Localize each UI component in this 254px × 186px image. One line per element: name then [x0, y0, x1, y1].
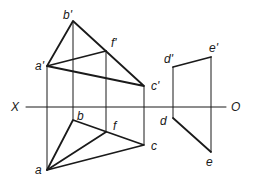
- label-a-prime: a': [35, 59, 45, 73]
- label-b-prime: b': [63, 8, 73, 22]
- top-view-triangle: [47, 120, 144, 170]
- label-c: c: [151, 139, 157, 153]
- label-e: e: [206, 155, 213, 169]
- top-view-line-de: [173, 118, 211, 152]
- axis-label-o: O: [231, 100, 240, 114]
- projection-diagram: X O b' a' f' c' d' e' b a f c d e: [0, 0, 254, 186]
- label-d: d: [160, 114, 167, 128]
- front-view-line-af: [47, 51, 106, 66]
- label-f-prime: f': [111, 36, 117, 50]
- label-d-prime: d': [164, 52, 174, 66]
- front-view-line-de: [173, 57, 211, 67]
- label-b: b: [77, 109, 84, 123]
- label-a: a: [35, 163, 42, 177]
- label-e-prime: e': [209, 41, 219, 55]
- top-view-line-af: [47, 132, 106, 170]
- axis-label-x: X: [10, 100, 20, 114]
- label-c-prime: c': [151, 79, 160, 93]
- label-f: f: [113, 119, 118, 133]
